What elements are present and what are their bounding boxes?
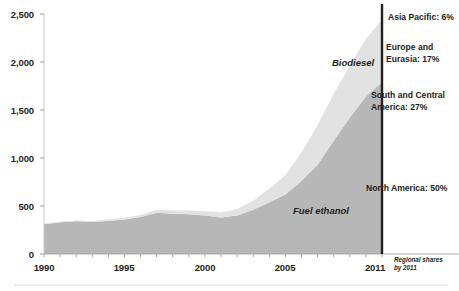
y-tick-label: 500 [0, 201, 34, 212]
chart-caption-line2: by 2011 [394, 264, 443, 272]
annotation-europe-eurasia-line1: Europe and [386, 42, 440, 54]
annotation-north-america: North America: 50% [366, 183, 447, 195]
annotation-europe-eurasia: Europe and Eurasia: 17% [386, 42, 440, 65]
x-tick-label: 2005 [265, 262, 305, 273]
annotation-south-central-america: South and Central America: 27% [371, 90, 445, 113]
chart-caption: Regional shares by 2011 [394, 256, 443, 271]
annotation-north-america-text: North America: 50% [366, 183, 447, 193]
annotation-europe-eurasia-line2: Eurasia: 17% [386, 54, 440, 66]
annotation-asia-pacific: Asia Pacific: 6% [388, 12, 454, 24]
y-tick-label: 2,000 [0, 57, 34, 68]
x-tick-label: 2011 [355, 262, 395, 273]
y-tick-label: 1,500 [0, 105, 34, 116]
y-tick-label: 1,000 [0, 153, 34, 164]
annotation-south-central-america-line2: America: 27% [371, 102, 445, 114]
y-tick-label: 0 [0, 249, 34, 260]
series-label-biodiesel: Biodiesel [332, 57, 374, 68]
y-tick-label: 2,500 [0, 9, 34, 20]
annotation-asia-pacific-text: Asia Pacific: 6% [388, 12, 454, 22]
series-label-fuel-ethanol: Fuel ethanol [293, 205, 349, 216]
x-tick-label: 1990 [24, 262, 64, 273]
chart-container: 2,500 2,000 1,500 1,000 500 0 1990 1995 … [0, 0, 459, 291]
chart-caption-line1: Regional shares [394, 256, 443, 264]
annotation-south-central-america-line1: South and Central [371, 90, 445, 102]
x-tick-label: 2000 [185, 262, 225, 273]
x-tick-label: 1995 [104, 262, 144, 273]
